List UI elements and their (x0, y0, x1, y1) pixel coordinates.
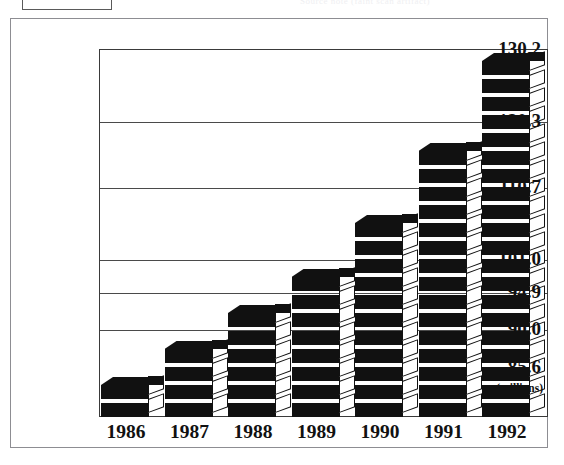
bar-slab (482, 93, 530, 111)
slab-side-face (466, 393, 482, 413)
bar-slab (292, 381, 340, 399)
bar-slab (482, 147, 530, 165)
slab-side-face (339, 393, 355, 413)
slab-side-face (339, 357, 355, 377)
slab-front-face (228, 385, 276, 399)
slab-top-side-face (339, 268, 355, 277)
slab-side-face (402, 321, 418, 341)
slab-front-face (482, 61, 530, 75)
slab-side-face (529, 213, 545, 233)
bar-slab (292, 345, 340, 363)
slab-front-face (419, 295, 467, 309)
slab-top-face (165, 341, 213, 349)
slab-side-face (529, 69, 545, 89)
bar-slab (419, 147, 467, 165)
xtick-label-1990: 1990 (349, 421, 411, 443)
slab-front-face (228, 403, 276, 417)
bar-slab (355, 219, 403, 237)
slab-side-face (402, 267, 418, 287)
ytick-label-130-2: 130.2 (461, 39, 547, 58)
slab-side-face (339, 375, 355, 395)
bar-slab (228, 327, 276, 345)
slab-front-face (355, 313, 403, 327)
slab-side-face (339, 339, 355, 359)
bar-1986[interactable] (101, 382, 149, 417)
slab-front-face (355, 367, 403, 381)
bar-slab (355, 291, 403, 309)
slab-top-side-face (402, 214, 418, 223)
slab-side-face (402, 303, 418, 323)
bar-1987[interactable] (165, 344, 213, 417)
slab-front-face (355, 295, 403, 309)
bar-1988[interactable] (228, 304, 276, 417)
slab-side-face (529, 195, 545, 215)
slab-top-side-face (466, 142, 482, 151)
ytick-label-120-3: 120.3 (461, 111, 547, 130)
slab-side-face (275, 357, 291, 377)
slab-front-face (355, 223, 403, 237)
bar-slab (355, 237, 403, 255)
slab-front-face (292, 331, 340, 345)
slab-front-face (355, 349, 403, 363)
ytick-label-110-7: 110.7 (461, 177, 547, 196)
bar-1990[interactable] (355, 204, 403, 417)
slab-side-face (339, 321, 355, 341)
top-partial-box (22, 0, 112, 10)
slab-front-face (419, 367, 467, 381)
slab-front-face (292, 349, 340, 363)
x-axis-labels: 1986198719881989199019911992 (99, 421, 548, 453)
bar-slab (355, 345, 403, 363)
slab-front-face (482, 133, 530, 147)
slab-front-face (419, 187, 467, 201)
bar-slab (292, 309, 340, 327)
bar-slab (101, 381, 149, 399)
bar-slab (228, 309, 276, 327)
xtick-label-1987: 1987 (159, 421, 221, 443)
bar-slab (482, 219, 530, 237)
slab-front-face (355, 385, 403, 399)
bar-slab (355, 363, 403, 381)
slab-front-face (228, 331, 276, 345)
slab-front-face (482, 79, 530, 93)
slab-front-face (228, 349, 276, 363)
slab-side-face (275, 321, 291, 341)
bar-slab (419, 165, 467, 183)
slab-side-face (402, 231, 418, 251)
slab-front-face (292, 313, 340, 327)
bar-slab (419, 327, 467, 345)
slab-top-face (101, 377, 149, 385)
bar-slab (355, 273, 403, 291)
slab-top-face (419, 143, 467, 151)
slab-front-face (419, 331, 467, 345)
bar-slab (165, 345, 213, 363)
slab-front-face (101, 385, 149, 399)
bar-slab (355, 327, 403, 345)
slab-side-face (529, 393, 545, 413)
bar-slab (165, 363, 213, 381)
slab-top-side-face (212, 340, 228, 349)
xtick-label-1991: 1991 (413, 421, 475, 443)
y-axis-unit-label: (millions) (461, 383, 547, 395)
bar-slab (355, 399, 403, 417)
slab-front-face (419, 259, 467, 273)
bar-slab (228, 399, 276, 417)
figure-frame: 130.2 120.3 110.7 101.0 94.9 90.0 85.6 (… (10, 18, 548, 448)
slab-top-face (292, 269, 340, 277)
slab-front-face (355, 331, 403, 345)
bar-1991[interactable] (419, 132, 467, 417)
bar-slab (292, 327, 340, 345)
slab-side-face (339, 303, 355, 323)
bar-1989[interactable] (292, 274, 340, 417)
bar-slab (292, 273, 340, 291)
slab-front-face (355, 241, 403, 255)
ytick-label-101-0: 101.0 (461, 249, 547, 268)
bar-slab (419, 309, 467, 327)
slab-side-face (148, 393, 164, 413)
bar-slab (228, 363, 276, 381)
bar-slab (101, 399, 149, 417)
bar-slab (292, 399, 340, 417)
slab-front-face (292, 367, 340, 381)
slab-side-face (402, 285, 418, 305)
xtick-label-1992: 1992 (476, 421, 538, 443)
bar-slab (292, 291, 340, 309)
